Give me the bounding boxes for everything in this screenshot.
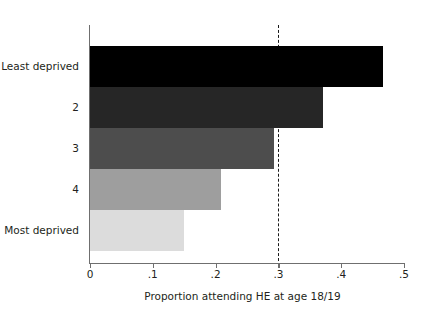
bar-row: [90, 169, 404, 210]
x-tick-mark: [404, 263, 405, 268]
x-tick-mark: [341, 263, 342, 268]
bar-row: [90, 46, 404, 87]
x-tick-text: .4: [336, 268, 346, 280]
x-tick-text: .5: [399, 268, 409, 280]
y-tick-label-2: 2: [0, 87, 79, 128]
x-axis-title-text: Proportion attending HE at age 18/19: [96, 290, 340, 302]
y-tick-label-least-deprived: Least deprived: [0, 46, 79, 87]
bar-row: [90, 128, 404, 169]
x-axis-tick-labels: 0 .1 .2 .3 .4 .5: [0, 263, 437, 285]
y-axis-tick-labels: Least deprived 2 3 4 Most deprived: [0, 46, 84, 251]
bar-least-deprived: [90, 46, 383, 87]
bar-2: [90, 87, 323, 128]
x-tick-mark: [153, 263, 154, 268]
y-tick-label-3: 3: [0, 128, 79, 169]
y-axis-line: [89, 25, 90, 263]
bar-row: [90, 210, 404, 251]
bar-most-deprived: [90, 210, 184, 251]
y-tick-label-4: 4: [0, 169, 79, 210]
x-tick-text: .3: [273, 268, 283, 280]
x-tick-mark: [90, 263, 91, 268]
x-tick-mark: [278, 263, 279, 268]
x-tick-mark: [216, 263, 217, 268]
x-axis-title: Proportion attending HE at age 18/19: [0, 290, 437, 302]
bar-4: [90, 169, 221, 210]
bars-layer: [90, 46, 404, 251]
x-tick-text: 0: [87, 268, 94, 280]
bar-row: [90, 87, 404, 128]
x-tick-text: .1: [148, 268, 158, 280]
bar-chart: Least deprived 2 3 4 Most deprived 0 .1 …: [0, 0, 437, 319]
bar-3: [90, 128, 274, 169]
y-tick-label-most-deprived: Most deprived: [0, 210, 79, 251]
x-tick-text: .2: [211, 268, 221, 280]
